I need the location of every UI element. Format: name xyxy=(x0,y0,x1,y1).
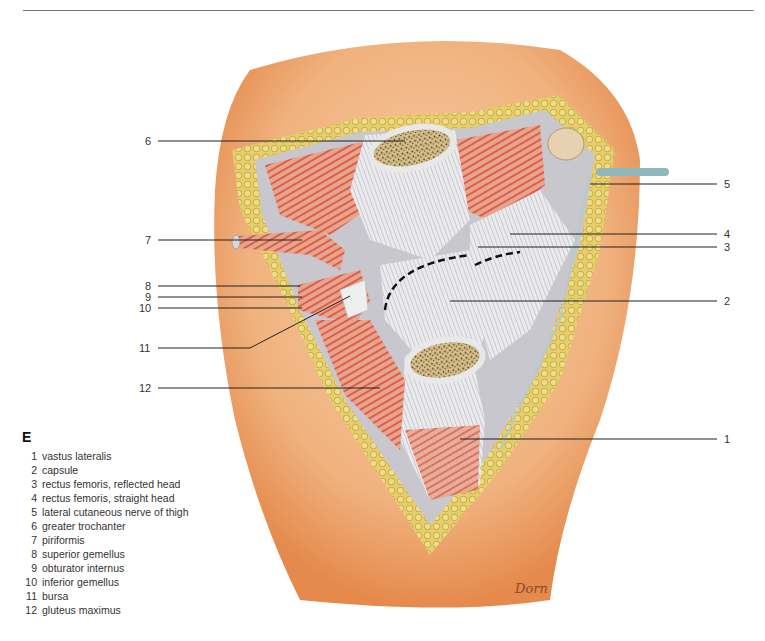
callout-3: 3 xyxy=(724,242,730,253)
callout-12: 12 xyxy=(139,383,151,394)
legend-item: 11bursa xyxy=(22,589,189,603)
artist-signature: Dorn xyxy=(515,581,548,596)
legend-item: 9obturator internus xyxy=(22,561,189,575)
legend-item: 2capsule xyxy=(22,463,189,477)
callout-6: 6 xyxy=(145,136,151,147)
piriformis-cut-end xyxy=(232,235,240,249)
callout-4: 4 xyxy=(724,229,730,240)
callout-1: 1 xyxy=(724,434,730,445)
callout-10: 10 xyxy=(139,303,151,314)
callout-11: 11 xyxy=(139,343,150,354)
legend-item: 4rectus femoris, straight head xyxy=(22,491,189,505)
legend-item: 8superior gemellus xyxy=(22,547,189,561)
legend-item: 7piriformis xyxy=(22,533,189,547)
legend-item: 1vastus lateralis xyxy=(22,449,189,463)
legend-item: 5lateral cutaneous nerve of thigh xyxy=(22,505,189,519)
legend-item: 6greater trochanter xyxy=(22,519,189,533)
callout-2: 2 xyxy=(724,296,730,307)
legend-item: 12gluteus maximus xyxy=(22,603,189,617)
callout-5: 5 xyxy=(724,179,730,190)
legend-item: 3rectus femoris, reflected head xyxy=(22,477,189,491)
legend-item: 10inferior gemellus xyxy=(22,575,189,589)
panel-letter: E xyxy=(22,429,189,445)
rectus-tendon-cut xyxy=(548,128,584,160)
callout-7: 7 xyxy=(145,235,151,246)
legend: E 1vastus lateralis 2capsule 3rectus fem… xyxy=(22,429,189,617)
